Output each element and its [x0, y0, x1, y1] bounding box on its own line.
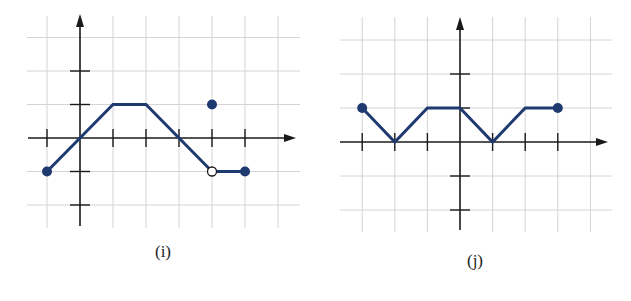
graph-j	[340, 17, 612, 232]
y-axis-arrow-icon	[456, 17, 464, 30]
y-axis-arrow-icon	[76, 14, 84, 27]
closed-point	[42, 167, 52, 177]
caption-j: (j)	[455, 251, 495, 271]
x-axis-arrow-icon	[596, 138, 608, 146]
closed-point	[207, 100, 217, 110]
closed-point	[357, 103, 367, 113]
closed-point	[240, 167, 250, 177]
closed-point	[553, 103, 563, 113]
caption-i: (i)	[143, 242, 183, 262]
graph-i	[27, 14, 300, 228]
open-point	[208, 167, 217, 176]
x-axis-arrow-icon	[284, 134, 296, 142]
axes	[28, 20, 290, 226]
graphs-canvas	[0, 0, 631, 301]
